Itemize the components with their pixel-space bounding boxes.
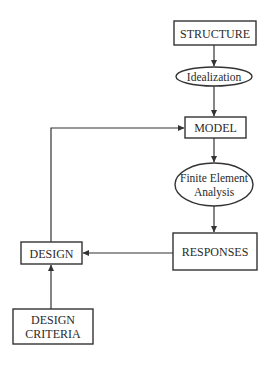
structure-label: STRUCTURE — [180, 27, 250, 41]
fea-label-line2: Analysis — [194, 186, 235, 199]
node-structure: STRUCTURE — [174, 21, 256, 45]
idealization-label: Idealization — [187, 71, 242, 83]
design-label: DESIGN — [30, 247, 74, 261]
fea-label-line1: Finite Element — [180, 172, 249, 184]
node-design: DESIGN — [21, 242, 82, 264]
node-finite-element-analysis: Finite Element Analysis — [175, 163, 253, 206]
model-label: MODEL — [194, 121, 237, 135]
node-design-criteria: DESIGN CRITERIA — [13, 309, 93, 344]
criteria-label-line2: CRITERIA — [25, 327, 81, 341]
criteria-label-line1: DESIGN — [31, 313, 75, 327]
flowchart-diagram: STRUCTURE Idealization MODEL Finite Elem… — [0, 0, 273, 366]
responses-label: RESPONSES — [182, 245, 249, 259]
edge-design-to-model-feedback — [51, 128, 184, 242]
node-idealization: Idealization — [176, 67, 252, 86]
node-model: MODEL — [185, 117, 246, 138]
node-responses: RESPONSES — [173, 233, 257, 270]
